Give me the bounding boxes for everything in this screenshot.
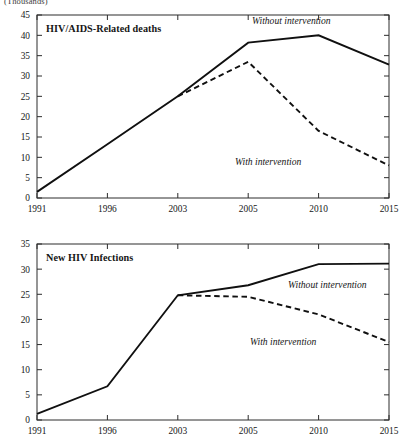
x-tick-label: 2010 bbox=[309, 204, 328, 214]
y-tick-label: 10 bbox=[21, 153, 31, 163]
series-line-dashed bbox=[178, 62, 389, 166]
x-tick-label: 2015 bbox=[380, 204, 399, 214]
series-annotation: With intervention bbox=[235, 156, 302, 167]
series-annotation: Without intervention bbox=[252, 15, 331, 26]
series-line-solid bbox=[37, 35, 389, 192]
x-tick-label: 2005 bbox=[239, 204, 258, 214]
x-tick-label: 2010 bbox=[309, 426, 328, 436]
y-tick-label: 10 bbox=[21, 365, 31, 375]
x-tick-label: 1991 bbox=[28, 204, 47, 214]
y-tick-label: 20 bbox=[21, 315, 31, 325]
x-tick-label: 2005 bbox=[239, 426, 258, 436]
chart-svg-infections: 05101520253035199119962003200520102015Ne… bbox=[0, 228, 406, 448]
x-tick-label: 1996 bbox=[98, 204, 117, 214]
y-tick-label: 15 bbox=[21, 340, 31, 350]
y-tick-label: 20 bbox=[21, 112, 31, 122]
y-tick-label: 25 bbox=[21, 290, 31, 300]
y-tick-label: 40 bbox=[21, 31, 31, 41]
chart-panel-hiv-aids-related-deaths: 0510152025303540451991199620032005201020… bbox=[0, 8, 406, 220]
y-tick-label: 45 bbox=[21, 10, 31, 20]
x-tick-label: 2003 bbox=[168, 426, 187, 436]
y-tick-label: 25 bbox=[21, 92, 31, 102]
series-annotation: Without intervention bbox=[288, 279, 367, 290]
y-tick-label: 30 bbox=[21, 265, 31, 275]
y-tick-label: 15 bbox=[21, 132, 31, 142]
x-tick-label: 1996 bbox=[98, 426, 117, 436]
chart-panel-new-hiv-infections: 05101520253035199119962003200520102015Ne… bbox=[0, 228, 406, 448]
y-tick-label: 35 bbox=[21, 51, 31, 61]
y-tick-label: 0 bbox=[25, 193, 30, 203]
panel-title: New HIV Infections bbox=[46, 252, 133, 263]
y-tick-label: 0 bbox=[25, 415, 30, 425]
y-tick-label: 30 bbox=[21, 71, 31, 81]
panel-title: HIV/AIDS-Related deaths bbox=[46, 23, 161, 34]
series-annotation: With intervention bbox=[250, 336, 317, 347]
x-tick-label: 2015 bbox=[380, 426, 399, 436]
y-tick-label: 5 bbox=[25, 390, 30, 400]
x-tick-label: 1991 bbox=[28, 426, 47, 436]
chart-svg-deaths: 0510152025303540451991199620032005201020… bbox=[0, 8, 406, 220]
y-tick-label: 35 bbox=[21, 239, 31, 249]
y-tick-label: 5 bbox=[25, 173, 30, 183]
x-tick-label: 2003 bbox=[168, 204, 187, 214]
unit-caption: (Thousands) bbox=[4, 0, 48, 6]
